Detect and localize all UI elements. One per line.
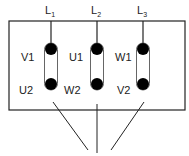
terminal-dot-v1 [45, 43, 57, 55]
terminal-label-w2: W2 [64, 84, 81, 96]
terminal-label-v2: V2 [117, 84, 130, 96]
terminal-dot-v2 [137, 78, 149, 90]
terminal-label-v1: V1 [21, 51, 34, 63]
terminal-dot-u1 [91, 43, 103, 55]
terminal-dot-w2 [91, 78, 103, 90]
line-label-l1: L1 [45, 4, 55, 18]
line-label-l3: L3 [137, 4, 147, 18]
terminal-label-u1: U1 [69, 51, 83, 63]
terminal-label-u2: U2 [19, 84, 33, 96]
line-label-l2: L2 [91, 4, 101, 18]
terminal-box-diagram: L1 L2 L3 V1 U2 U1 W2 W1 V2 [0, 0, 189, 156]
terminal-label-w1: W1 [115, 51, 132, 63]
motor-lead-left [53, 102, 88, 150]
terminal-dot-u2 [45, 78, 57, 90]
terminal-dot-w1 [137, 43, 149, 55]
motor-lead-right [111, 102, 144, 150]
